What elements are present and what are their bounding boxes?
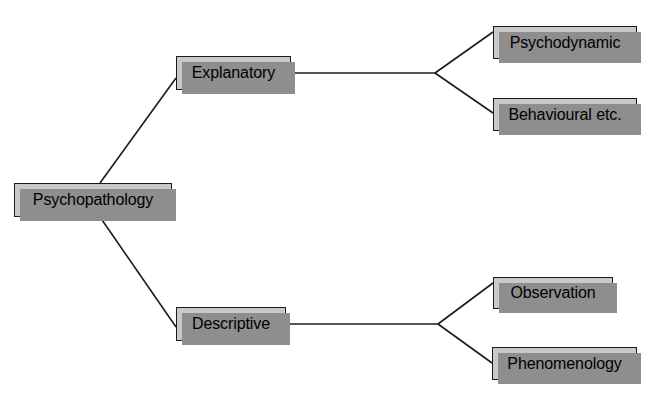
- node-psychopathology[interactable]: Psychopathology: [14, 183, 172, 217]
- edge-fork-psychodynamic: [435, 32, 493, 73]
- node-psychodynamic[interactable]: Psychodynamic: [493, 26, 637, 59]
- node-behavioural-label: Behavioural etc.: [508, 107, 621, 123]
- node-explanatory[interactable]: Explanatory: [176, 56, 291, 90]
- edge-fork-phenomenology: [438, 324, 492, 363]
- node-phenomenology-label: Phenomenology: [507, 356, 621, 372]
- node-observation[interactable]: Observation: [493, 277, 613, 309]
- edge-psychopathology-explanatory: [100, 78, 176, 183]
- node-descriptive[interactable]: Descriptive: [176, 307, 286, 341]
- node-descriptive-label: Descriptive: [192, 316, 270, 332]
- node-psychodynamic-label: Psychodynamic: [510, 35, 621, 51]
- node-observation-label: Observation: [510, 285, 595, 301]
- edge-fork-observation: [438, 283, 493, 324]
- edge-fork-behavioural: [435, 73, 493, 113]
- node-explanatory-label: Explanatory: [192, 65, 275, 81]
- node-psychopathology-label: Psychopathology: [33, 192, 153, 208]
- edge-psychopathology-descriptive: [100, 217, 176, 327]
- node-phenomenology[interactable]: Phenomenology: [492, 347, 637, 380]
- psychopathology-tree-diagram: Psychopathology Explanatory Descriptive …: [0, 0, 653, 397]
- node-behavioural[interactable]: Behavioural etc.: [493, 98, 637, 131]
